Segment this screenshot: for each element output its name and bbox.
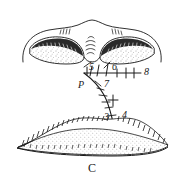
upper-lobed-body	[23, 20, 161, 64]
outline-hatching-left	[60, 29, 70, 34]
label-8: 8	[144, 67, 149, 77]
lower-ridge-body	[17, 116, 168, 156]
branch-tick	[99, 95, 107, 96]
radiating-lines	[86, 37, 95, 55]
label-4: 4	[122, 110, 127, 120]
figure-panel: P 5 6 7 8 3 4 C	[0, 0, 184, 181]
label-6: 6	[112, 62, 117, 72]
branch-tick	[105, 107, 113, 108]
figure-caption: C	[88, 162, 96, 174]
label-7: 7	[104, 79, 109, 89]
axis-tick	[97, 65, 99, 76]
label-5: 5	[89, 62, 94, 72]
label-3: 3	[104, 112, 109, 122]
figure-drawing	[0, 0, 184, 181]
outline-hatching-right	[112, 29, 122, 35]
label-p: P	[78, 80, 84, 90]
